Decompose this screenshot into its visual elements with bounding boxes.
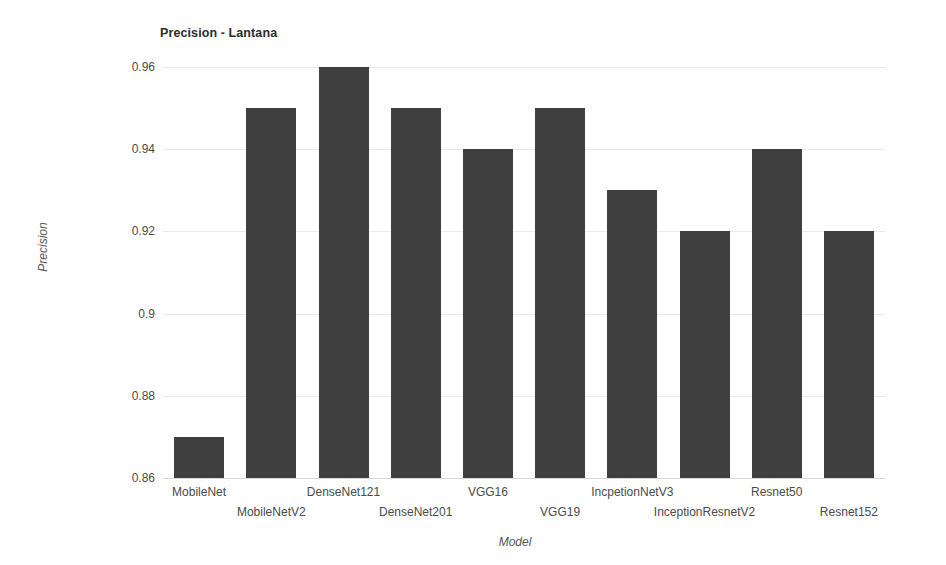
x-axis-tick-label: Resnet50 <box>751 485 802 499</box>
bar <box>391 108 441 478</box>
chart-title: Precision - Lantana <box>160 26 277 40</box>
y-axis-tick-label: 0.96 <box>109 60 155 74</box>
y-axis-title: Precision <box>36 202 50 292</box>
gridline <box>163 67 885 68</box>
x-axis-tick-label: DenseNet201 <box>379 505 452 519</box>
y-axis-tick-labels: 0.860.880.90.920.940.96 <box>105 67 155 478</box>
bar <box>174 437 224 478</box>
x-axis-tick-labels: MobileNetMobileNetV2DenseNet121DenseNet2… <box>0 478 946 538</box>
y-axis-tick-label: 0.9 <box>109 307 155 321</box>
y-axis-tick-label: 0.88 <box>109 389 155 403</box>
y-axis-tick-label: 0.92 <box>109 224 155 238</box>
bar <box>246 108 296 478</box>
bar <box>535 108 585 478</box>
plot-area <box>163 67 885 478</box>
bar <box>319 67 369 478</box>
y-axis-tick-label: 0.94 <box>109 142 155 156</box>
x-axis-tick-label: MobileNet <box>172 485 226 499</box>
x-axis-tick-label: MobileNetV2 <box>237 505 306 519</box>
bar <box>680 231 730 478</box>
bar <box>463 149 513 478</box>
x-axis-tick-label: VGG19 <box>540 505 580 519</box>
x-axis-tick-label: IncpetionNetV3 <box>591 485 673 499</box>
x-axis-tick-label: InceptionResnetV2 <box>654 505 755 519</box>
x-axis-tick-label: Resnet152 <box>820 505 878 519</box>
x-axis-title-text: Model <box>499 535 532 549</box>
x-axis-title: Model <box>0 535 946 549</box>
chart-figure: Precision - Lantana Precision 0.860.880.… <box>0 0 946 565</box>
bar <box>607 190 657 478</box>
x-axis-tick-label: DenseNet121 <box>307 485 380 499</box>
x-axis-tick-label: VGG16 <box>468 485 508 499</box>
bar <box>824 231 874 478</box>
bar <box>752 149 802 478</box>
